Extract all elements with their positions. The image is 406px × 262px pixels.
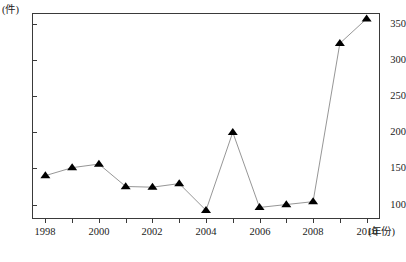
x-axis-tick-label: 2000 — [79, 226, 119, 237]
y-axis-unit-label: (件) — [2, 1, 19, 16]
y-axis-tick-mark — [32, 205, 37, 206]
y-axis-tick-mark — [32, 96, 37, 97]
x-axis-tick-label: 2006 — [240, 226, 280, 237]
y-axis-tick-mark — [32, 168, 37, 169]
x-axis-tick-label: 2008 — [293, 226, 333, 237]
y-axis-tick-mark — [32, 132, 37, 133]
x-axis-tick-label: 1998 — [25, 226, 65, 237]
x-axis-tick-mark — [313, 219, 314, 223]
x-axis-tick-mark — [233, 219, 234, 223]
x-axis-tick-label: 2004 — [186, 226, 226, 237]
x-axis-tick-mark — [72, 219, 73, 223]
y-axis-tick-label: 300 — [378, 55, 406, 66]
x-axis-tick-mark — [126, 219, 127, 223]
chart-container: (件) 350300250200150100 19982000200220042… — [0, 0, 406, 262]
x-axis-tick-mark — [179, 219, 180, 223]
y-axis-tick-label: 350 — [378, 19, 406, 30]
y-axis-tick-mark — [32, 60, 37, 61]
x-axis-tick-mark — [367, 219, 368, 223]
x-axis-tick-mark — [286, 219, 287, 223]
x-axis-tick-mark — [260, 219, 261, 223]
y-axis-tick-label: 100 — [378, 200, 406, 211]
x-axis-tick-mark — [99, 219, 100, 223]
x-axis-tick-mark — [45, 219, 46, 223]
x-axis-tick-label: 2002 — [132, 226, 172, 237]
x-axis-tick-mark — [340, 219, 341, 223]
plot-area — [32, 13, 380, 219]
y-axis-tick-label: 250 — [378, 91, 406, 102]
y-axis-tick-label: 150 — [378, 163, 406, 174]
x-axis-unit-label: (年份) — [368, 226, 395, 237]
x-axis-tick-mark — [206, 219, 207, 223]
y-axis-tick-mark — [32, 24, 37, 25]
y-axis-tick-label: 200 — [378, 127, 406, 138]
x-axis-tick-mark — [152, 219, 153, 223]
